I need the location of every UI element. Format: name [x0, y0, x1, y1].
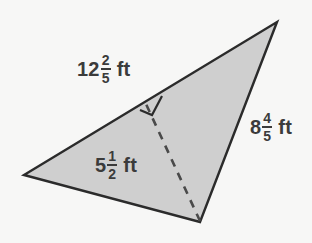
side-label-right: 8 4 5 ft: [250, 111, 292, 143]
right-side-denominator: 5: [262, 126, 272, 143]
right-side-numerator: 4: [262, 111, 272, 126]
hypotenuse-numerator: 2: [101, 53, 111, 68]
height-label: 5 1 2 ft: [95, 149, 137, 181]
side-label-hypotenuse: 12 2 5 ft: [77, 53, 130, 85]
right-side-unit: ft: [278, 117, 292, 137]
height-whole-number: 5: [95, 155, 106, 175]
hypotenuse-unit: ft: [117, 59, 131, 79]
hypotenuse-whole-number: 12: [77, 59, 100, 79]
height-fraction: 1 2: [107, 149, 117, 181]
height-denominator: 2: [107, 164, 117, 181]
right-side-fraction: 4 5: [262, 111, 272, 143]
triangle-figure: 12 2 5 ft 8 4 5 ft 5 1 2 ft: [0, 0, 312, 243]
triangle-shape: [24, 22, 277, 222]
right-side-whole-number: 8: [250, 117, 261, 137]
height-numerator: 1: [107, 149, 117, 164]
hypotenuse-denominator: 5: [101, 68, 111, 85]
hypotenuse-fraction: 2 5: [101, 53, 111, 85]
height-unit: ft: [123, 155, 137, 175]
